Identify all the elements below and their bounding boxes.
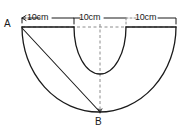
- dimension-label-middle: 10cm: [79, 12, 100, 22]
- inner-semicircle-arc: [74, 27, 126, 74]
- point-label-b: B: [95, 116, 102, 127]
- point-label-a: A: [4, 18, 11, 29]
- dimension-label-right: 10cm: [135, 12, 156, 22]
- outer-semicircle-arc: [22, 27, 176, 112]
- geometry-figure: A B 10cm 10cm 10cm: [0, 0, 190, 134]
- dimension-label-left: 10cm: [27, 12, 48, 22]
